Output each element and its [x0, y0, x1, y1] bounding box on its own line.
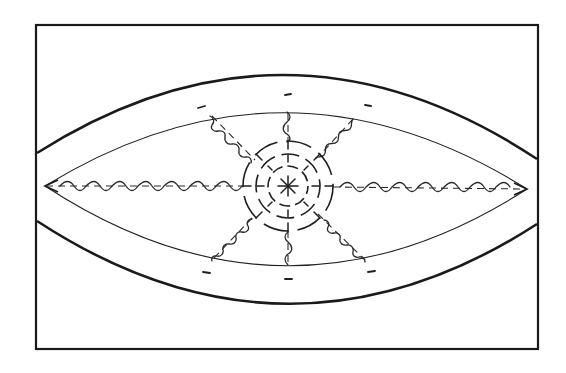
wavy-line-top	[283, 112, 290, 142]
wavy-line-upper-left	[210, 116, 251, 163]
outer-top-arc	[37, 75, 537, 159]
dash-mark-bottom-left	[203, 272, 210, 273]
wavy-line-right	[340, 183, 510, 192]
inner-bottom-arc	[45, 186, 527, 266]
center-star-icon	[278, 176, 298, 196]
horizontal-axis-right	[333, 187, 526, 189]
dash-mark-top-center	[285, 94, 291, 95]
dash-mark-top-left	[198, 106, 205, 108]
diagonal-axis-lower-right	[318, 214, 365, 260]
diagonal-axis-upper-left	[212, 116, 255, 160]
dash-mark-bottom-right	[368, 271, 375, 272]
diagonal-axis-lower-left	[214, 218, 252, 258]
dash-mark-top-right	[365, 105, 371, 106]
inner-top-arc	[45, 113, 527, 189]
diagram-canvas: Line drawing of an eye/lens shaped form …	[0, 0, 566, 373]
